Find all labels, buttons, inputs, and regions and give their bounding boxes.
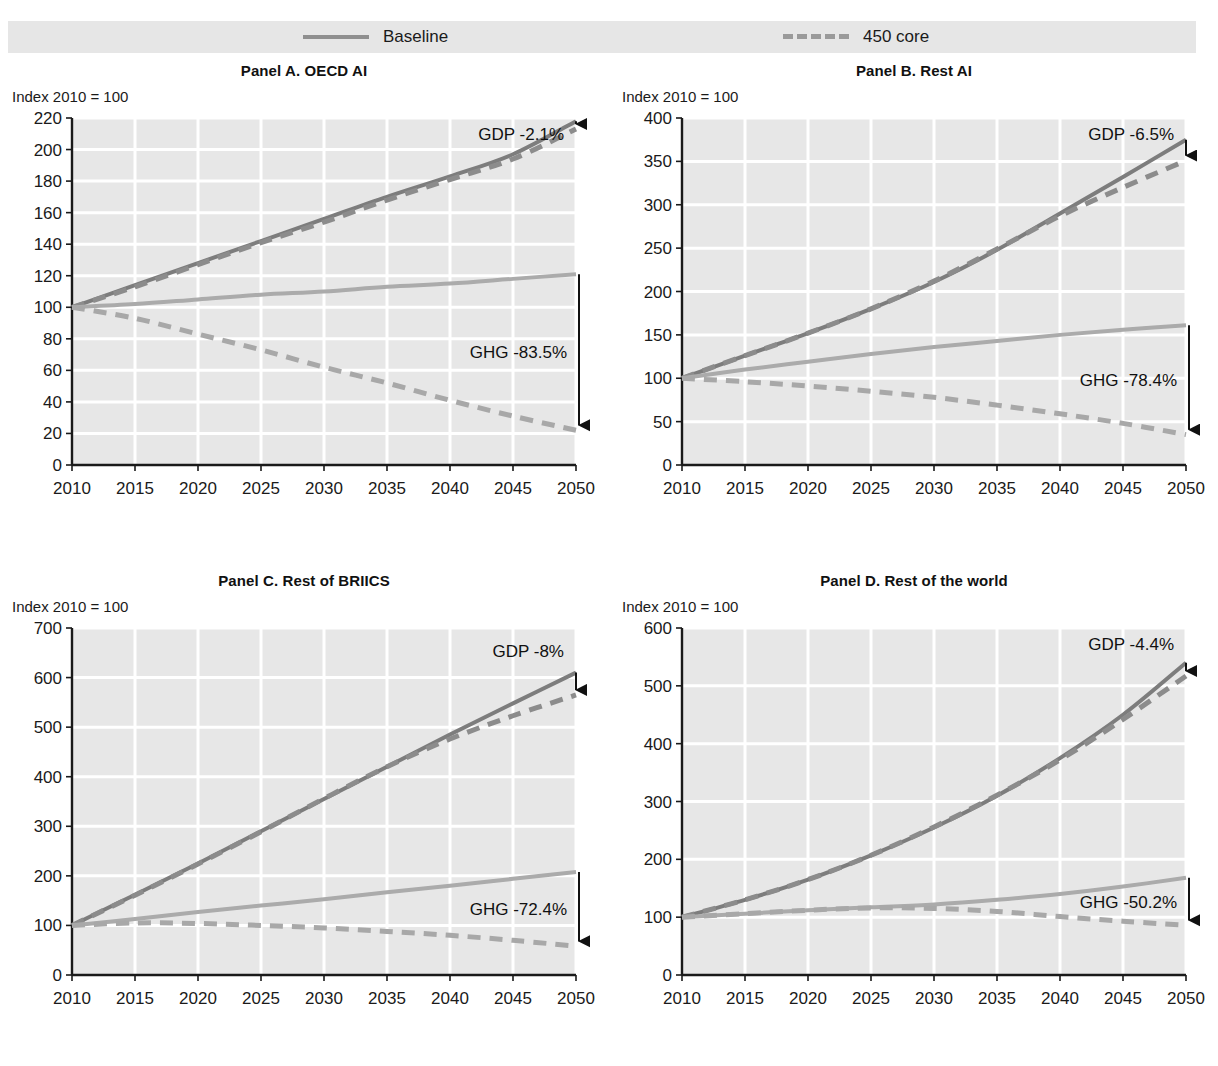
panel-d-ytick: 0 [663,966,672,985]
panel-c-ytick: 600 [34,669,62,688]
panel-b-xtick: 2045 [1104,479,1142,499]
panel-c-xtick: 2025 [242,989,280,1009]
panel-b-ytick: 250 [644,239,672,258]
panel-b-xtick: 2010 [663,479,701,499]
panel-a: Panel A. OECD AI Index 2010 = 100 020406… [0,62,608,532]
panel-d-ytick: 300 [644,793,672,812]
panel-b-xtick: 2050 [1167,479,1205,499]
legend-entry-450-core[interactable]: 450 core [783,21,929,53]
panel-a-xtick: 2020 [179,479,217,499]
panel-d-xtick: 2035 [978,989,1016,1009]
panel-a-gdp-gap-label: GDP -2.1% [478,125,564,144]
panel-c-xtick: 2030 [305,989,343,1009]
panel-a-ytick: 100 [34,298,62,317]
panel-a-ytick: 200 [34,141,62,160]
solid-line-swatch-icon [303,21,369,53]
panel-a-ytick: 60 [43,361,62,380]
panel-d-xtick: 2040 [1041,989,1079,1009]
panel-c-index-note: Index 2010 = 100 [12,598,128,615]
panel-c-xtick: 2045 [494,989,532,1009]
panel-a-xtick: 2030 [305,479,343,499]
panel-d-ghg-gap-label: GHG -50.2% [1080,893,1177,912]
panel-a-xtick: 2035 [368,479,406,499]
panel-d: Panel D. Rest of the world Index 2010 = … [610,572,1218,1066]
panel-a-ghg-gap-label: GHG -83.5% [470,343,567,362]
panel-b-gdp-gap-label: GDP -6.5% [1088,125,1174,144]
panel-c-ytick: 200 [34,867,62,886]
panel-d-ytick: 600 [644,620,672,638]
panel-b-xtick: 2035 [978,479,1016,499]
panel-a-ytick: 160 [34,204,62,223]
panel-c-ghg-gap-label: GHG -72.4% [470,900,567,919]
panel-b-ytick: 400 [644,110,672,128]
panel-c-ytick: 0 [53,966,62,985]
figure-title-strip [0,0,1218,11]
panel-a-xtick: 2040 [431,479,469,499]
panel-d-xtick: 2050 [1167,989,1205,1009]
panel-c: Panel C. Rest of BRIICS Index 2010 = 100… [0,572,608,1066]
panel-c-ytick: 300 [34,817,62,836]
panel-c-ytick: 100 [34,916,62,935]
panel-a-ytick: 140 [34,235,62,254]
panel-d-svg: 0100200300400500600GDP -4.4%GHG -50.2% [610,620,1218,1020]
panel-a-ytick: 0 [53,456,62,475]
panel-d-plot: 0100200300400500600GDP -4.4%GHG -50.2% [610,620,1218,1020]
panel-b-ytick: 100 [644,369,672,388]
panel-d-xtick: 2030 [915,989,953,1009]
panel-a-xtick: 2045 [494,479,532,499]
legend-entry-baseline[interactable]: Baseline [303,21,448,53]
panel-b-title: Panel B. Rest AI [610,62,1218,79]
panel-d-gdp-gap-label: GDP -4.4% [1088,635,1174,654]
panel-c-xtick: 2010 [53,989,91,1009]
panel-a-title: Panel A. OECD AI [0,62,608,79]
panel-a-xtick: 2015 [116,479,154,499]
legend-label-baseline: Baseline [383,27,448,47]
panel-b-ytick: 50 [653,413,672,432]
panel-b-xtick: 2030 [915,479,953,499]
panel-b: Panel B. Rest AI Index 2010 = 100 050100… [610,62,1218,532]
panel-b-xtick: 2020 [789,479,827,499]
panel-a-xtick: 2050 [557,479,595,499]
panel-c-xtick: 2040 [431,989,469,1009]
panel-b-index-note: Index 2010 = 100 [622,88,738,105]
panel-c-gdp-gap-label: GDP -8% [493,642,565,661]
panel-a-ytick: 80 [43,330,62,349]
panel-d-xtick: 2045 [1104,989,1142,1009]
panel-c-xtick: 2035 [368,989,406,1009]
panel-d-title: Panel D. Rest of the world [610,572,1218,589]
panel-c-xtick: 2020 [179,989,217,1009]
panel-c-ytick: 700 [34,620,62,638]
panel-d-xtick: 2020 [789,989,827,1009]
panel-a-plot: 020406080100120140160180200220GDP -2.1%G… [0,110,608,510]
panel-c-plot: 0100200300400500600700GDP -8%GHG -72.4% [0,620,608,1020]
panel-a-ytick: 20 [43,424,62,443]
panel-b-ytick: 150 [644,326,672,345]
panel-c-ytick: 500 [34,718,62,737]
panel-b-plot: 050100150200250300350400GDP -6.5%GHG -78… [610,110,1218,510]
panel-b-ytick: 350 [644,152,672,171]
panel-a-index-note: Index 2010 = 100 [12,88,128,105]
panel-a-ytick: 220 [34,110,62,128]
panel-b-svg: 050100150200250300350400GDP -6.5%GHG -78… [610,110,1218,510]
panel-c-xtick: 2050 [557,989,595,1009]
panel-a-ytick: 120 [34,267,62,286]
panel-a-xtick: 2025 [242,479,280,499]
panel-b-ytick: 300 [644,196,672,215]
chart-legend: Baseline 450 core [8,21,1196,53]
panel-a-svg: 020406080100120140160180200220GDP -2.1%G… [0,110,608,510]
panel-b-ytick: 200 [644,283,672,302]
panel-b-ghg-gap-label: GHG -78.4% [1080,371,1177,390]
panel-b-ytick: 0 [663,456,672,475]
panel-c-svg: 0100200300400500600700GDP -8%GHG -72.4% [0,620,608,1020]
legend-label-450-core: 450 core [863,27,929,47]
panel-a-xtick: 2010 [53,479,91,499]
panel-d-xtick: 2025 [852,989,890,1009]
panel-b-xtick: 2025 [852,479,890,499]
panel-c-xtick: 2015 [116,989,154,1009]
panel-b-xtick: 2015 [726,479,764,499]
panel-c-ytick: 400 [34,768,62,787]
panel-c-title: Panel C. Rest of BRIICS [0,572,608,589]
panel-b-xtick: 2040 [1041,479,1079,499]
panel-d-xtick: 2015 [726,989,764,1009]
panel-d-index-note: Index 2010 = 100 [622,598,738,615]
